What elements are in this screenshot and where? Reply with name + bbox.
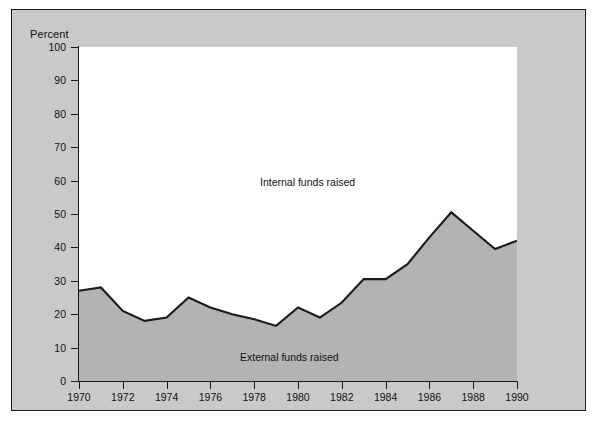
x-tick-1970 <box>79 382 80 389</box>
x-tick-label-1980: 1980 <box>281 392 315 403</box>
x-tick-1984 <box>386 382 387 389</box>
y-tick-label-80: 80 <box>40 109 66 120</box>
x-tick-label-1984: 1984 <box>369 392 403 403</box>
y-tick-0 <box>71 381 78 382</box>
x-tick-label-1982: 1982 <box>325 392 359 403</box>
y-tick-label-10: 10 <box>40 343 66 354</box>
x-tick-1990 <box>517 382 518 389</box>
x-tick-1976 <box>210 382 211 389</box>
external-funds-label: External funds raised <box>240 351 339 363</box>
internal-funds-label: Internal funds raised <box>260 176 355 188</box>
y-axis-title: Percent <box>30 28 69 40</box>
x-tick-1980 <box>298 382 299 389</box>
x-tick-label-1970: 1970 <box>62 392 96 403</box>
x-tick-label-1976: 1976 <box>193 392 227 403</box>
x-tick-1974 <box>167 382 168 389</box>
x-tick-label-1986: 1986 <box>412 392 446 403</box>
x-tick-label-1972: 1972 <box>106 392 140 403</box>
y-tick-30 <box>71 281 78 282</box>
x-tick-label-1974: 1974 <box>150 392 184 403</box>
x-tick-label-1988: 1988 <box>456 392 490 403</box>
y-tick-label-40: 40 <box>40 242 66 253</box>
y-tick-60 <box>71 181 78 182</box>
y-tick-80 <box>71 114 78 115</box>
y-tick-40 <box>71 247 78 248</box>
area-chart-svg <box>79 47 517 381</box>
plot-area <box>79 47 517 381</box>
y-tick-label-90: 90 <box>40 75 66 86</box>
y-tick-label-50: 50 <box>40 209 66 220</box>
y-tick-50 <box>71 214 78 215</box>
y-tick-90 <box>71 80 78 81</box>
y-tick-20 <box>71 314 78 315</box>
y-tick-100 <box>71 47 78 48</box>
x-tick-1986 <box>429 382 430 389</box>
y-tick-10 <box>71 348 78 349</box>
x-tick-1988 <box>473 382 474 389</box>
y-tick-70 <box>71 147 78 148</box>
x-tick-1978 <box>254 382 255 389</box>
x-tick-label-1978: 1978 <box>237 392 271 403</box>
chart-figure: Percent 1009080706050403020100 197019721… <box>11 9 586 411</box>
y-tick-label-100: 100 <box>40 42 66 53</box>
y-tick-label-30: 30 <box>40 276 66 287</box>
y-tick-label-20: 20 <box>40 309 66 320</box>
y-tick-label-0: 0 <box>40 376 66 387</box>
y-tick-label-70: 70 <box>40 142 66 153</box>
x-tick-label-1990: 1990 <box>500 392 534 403</box>
y-tick-label-60: 60 <box>40 176 66 187</box>
x-tick-1972 <box>123 382 124 389</box>
x-tick-1982 <box>342 382 343 389</box>
